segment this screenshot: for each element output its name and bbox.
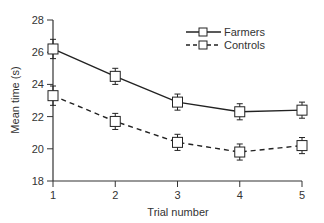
square-marker-icon <box>235 147 245 157</box>
x-tick-label: 3 <box>174 189 180 201</box>
series-farmers <box>48 39 307 120</box>
x-tick-label: 2 <box>112 189 118 201</box>
square-marker-icon <box>173 137 183 147</box>
legend-label: Controls <box>224 39 265 51</box>
square-marker-icon <box>110 71 120 81</box>
y-tick-label: 20 <box>32 143 44 155</box>
square-marker-icon <box>110 116 120 126</box>
line-chart: 18202224262812345 FarmersControls Trial … <box>0 0 324 223</box>
square-marker-icon <box>48 44 58 54</box>
y-tick-label: 22 <box>32 111 44 123</box>
square-marker-icon <box>297 105 307 115</box>
x-tick-label: 5 <box>299 189 305 201</box>
y-tick-label: 24 <box>32 78 44 90</box>
series-layer <box>48 39 307 160</box>
y-tick-label: 18 <box>32 175 44 187</box>
legend-label: Farmers <box>224 26 265 38</box>
y-tick-label: 28 <box>32 14 44 26</box>
legend: FarmersControls <box>186 26 265 51</box>
square-marker-icon <box>297 141 307 151</box>
square-marker-icon <box>173 97 183 107</box>
x-axis-label: Trial number <box>147 206 209 218</box>
square-marker-icon <box>235 107 245 117</box>
square-marker-icon <box>48 91 58 101</box>
legend-square-icon <box>199 41 207 49</box>
legend-square-icon <box>199 28 207 36</box>
y-axis-label: Mean time (s) <box>9 66 21 133</box>
x-tick-label: 1 <box>50 189 56 201</box>
y-tick-label: 26 <box>32 46 44 58</box>
x-tick-label: 4 <box>237 189 243 201</box>
